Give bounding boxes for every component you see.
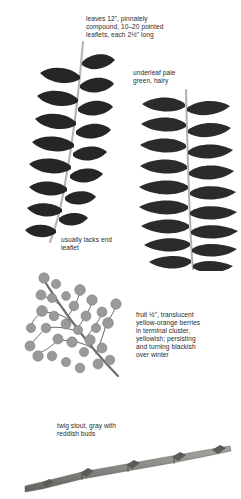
berry-cluster-figure: [22, 268, 126, 378]
leaf-right-figure: [138, 88, 241, 271]
twig-figure: [22, 444, 236, 496]
caption-fruit: fruit ½", translucent yellow-orange berr…: [136, 311, 234, 360]
caption-underleaf: underleaf pale green, hairy: [133, 69, 205, 85]
leaf-left-leaflets: [25, 54, 115, 237]
caption-leaves: leaves 12", pinnately compound, 10–20 po…: [86, 15, 190, 39]
botanical-plate: leaves 12", pinnately compound, 10–20 po…: [0, 0, 241, 499]
caption-no-end-leaflet: usually lacks end leaflet: [61, 236, 139, 252]
leaf-left-figure: [20, 40, 116, 245]
caption-twig: twig stout, gray with reddish buds: [57, 422, 149, 438]
